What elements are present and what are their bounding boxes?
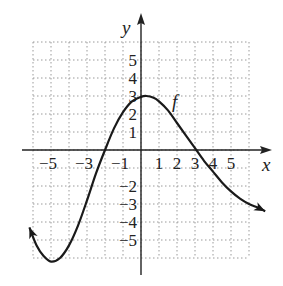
curve-f [29,96,265,262]
axes [22,13,272,275]
function-curve [29,96,265,262]
graph-of-f: −5−3−11234554321−2−3−4−5 x y f [0,0,283,286]
y-tick-label: 5 [129,51,138,70]
y-tick-label: 2 [129,105,138,124]
y-tick-label: −3 [119,195,137,214]
y-tick-label: −5 [119,231,137,250]
y-tick-label: −2 [119,177,137,196]
x-tick-label: −5 [39,154,57,173]
y-axis-label: y [120,17,131,38]
y-tick-label: 4 [129,69,138,88]
x-tick-label: −1 [111,154,129,173]
x-tick-label: −3 [75,154,93,173]
x-axis-label: x [261,154,271,175]
y-tick-label: −4 [119,213,138,232]
x-tick-label: 2 [173,154,182,173]
x-tick-label: 3 [191,154,200,173]
y-tick-label: 1 [129,123,138,142]
x-tick-label: 1 [155,154,164,173]
x-tick-label: 4 [209,154,218,173]
function-label: f [172,91,180,112]
x-tick-label: 5 [227,154,236,173]
plot-area: −5−3−11234554321−2−3−4−5 x y f [0,0,283,286]
